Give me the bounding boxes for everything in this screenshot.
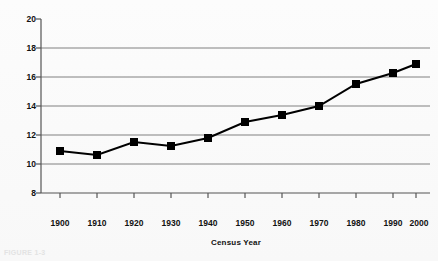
x-axis-title: Census Year (41, 238, 431, 247)
chart-figure: 20 18 16 14 12 10 8 Life Expectancy at A… (0, 0, 438, 261)
data-point-marker (204, 134, 212, 142)
x-tick-label: 1930 (162, 218, 181, 228)
data-point-marker (315, 102, 323, 110)
data-point-marker (389, 69, 397, 77)
data-point-marker (56, 147, 64, 155)
x-tick-label: 1960 (273, 218, 292, 228)
x-tick-label: 1990 (384, 218, 403, 228)
x-tick-marks (60, 193, 416, 198)
gridlines (41, 48, 430, 164)
x-tick-label: 1970 (310, 218, 329, 228)
x-tick-label: 1980 (347, 218, 366, 228)
x-tick-label: 1900 (51, 218, 70, 228)
data-point-marker (352, 80, 360, 88)
data-point-marker (167, 142, 175, 150)
data-point-marker (278, 111, 286, 119)
data-point-marker (130, 138, 138, 146)
y-tick-marks (36, 19, 41, 193)
series-line (60, 64, 416, 155)
x-tick-label: 1950 (236, 218, 255, 228)
figure-caption: FIGURE 1-3 (4, 249, 46, 256)
x-tick-label: 1940 (199, 218, 218, 228)
data-point-marker (241, 118, 249, 126)
data-point-marker (93, 151, 101, 159)
x-tick-label: 1920 (125, 218, 144, 228)
x-tick-label: 2000 (410, 218, 429, 228)
data-point-marker (412, 60, 420, 68)
series-markers (56, 60, 420, 159)
x-tick-label: 1910 (88, 218, 107, 228)
